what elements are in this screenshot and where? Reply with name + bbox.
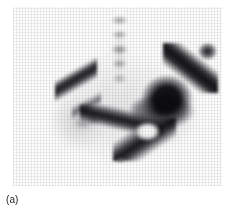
figure-caption: (a) (6, 194, 19, 206)
midline-focal-uptake (115, 156, 125, 164)
obturator-foramen-photopenic-area (132, 120, 163, 143)
figure-panel: (a) (0, 0, 234, 216)
right-iliac-crest-tip-uptake (197, 39, 220, 60)
bone-scintigraphy-image (13, 7, 222, 186)
